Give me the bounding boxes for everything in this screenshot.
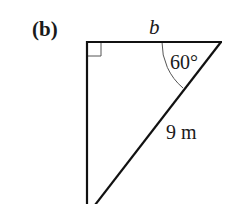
right-angle-marker: [87, 42, 101, 56]
hypotenuse-label: 9 m: [166, 121, 197, 143]
hypotenuse: [95, 42, 221, 204]
angle-label: 60°: [170, 51, 198, 73]
triangle-diagram: (b) b 60° 9 m: [0, 0, 244, 204]
part-label: (b): [32, 17, 58, 41]
top-side-label: b: [149, 15, 160, 39]
triangle-figure: (b) b 60° 9 m: [0, 0, 244, 204]
